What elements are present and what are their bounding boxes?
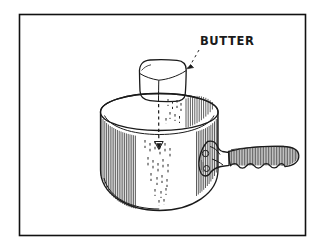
butter-label-text: BUTTER xyxy=(200,34,254,48)
butter-cube xyxy=(139,60,186,102)
scene-svg: BUTTER xyxy=(0,0,326,251)
illustration-canvas: BUTTER xyxy=(0,0,326,251)
butter-top-left-edge xyxy=(140,74,159,81)
butter-annotation: BUTTER xyxy=(187,34,255,69)
border-frame xyxy=(20,15,306,236)
butter-cube-outline xyxy=(139,60,186,102)
bracket-rivet-lower xyxy=(204,166,210,172)
butter-leader-line xyxy=(191,50,199,64)
pot-texture-dashes xyxy=(145,99,181,206)
pot-left-hatching xyxy=(101,116,135,209)
falling-motion-line xyxy=(155,104,164,150)
butter-leader-arrowhead xyxy=(187,65,193,69)
butter-corner-accent xyxy=(142,65,152,71)
saucepan-handle xyxy=(229,146,299,168)
butter-top-right-edge xyxy=(159,71,186,81)
